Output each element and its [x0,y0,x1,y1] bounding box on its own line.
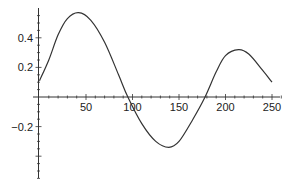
data-curve [40,13,273,148]
x-tick-label: 150 [170,101,188,113]
x-tick-label: 200 [216,101,234,113]
x-tick-label: 50 [80,101,92,113]
tick-labels: 50100150200250−0.20.20.4 [11,32,281,133]
y-tick-label: −0.2 [11,121,33,133]
line-chart: 50100150200250−0.20.20.4 [0,0,295,185]
x-tick-label: 250 [263,101,281,113]
y-tick-label: 0.2 [18,61,33,73]
axes [33,8,280,178]
y-tick-label: 0.4 [18,32,33,44]
